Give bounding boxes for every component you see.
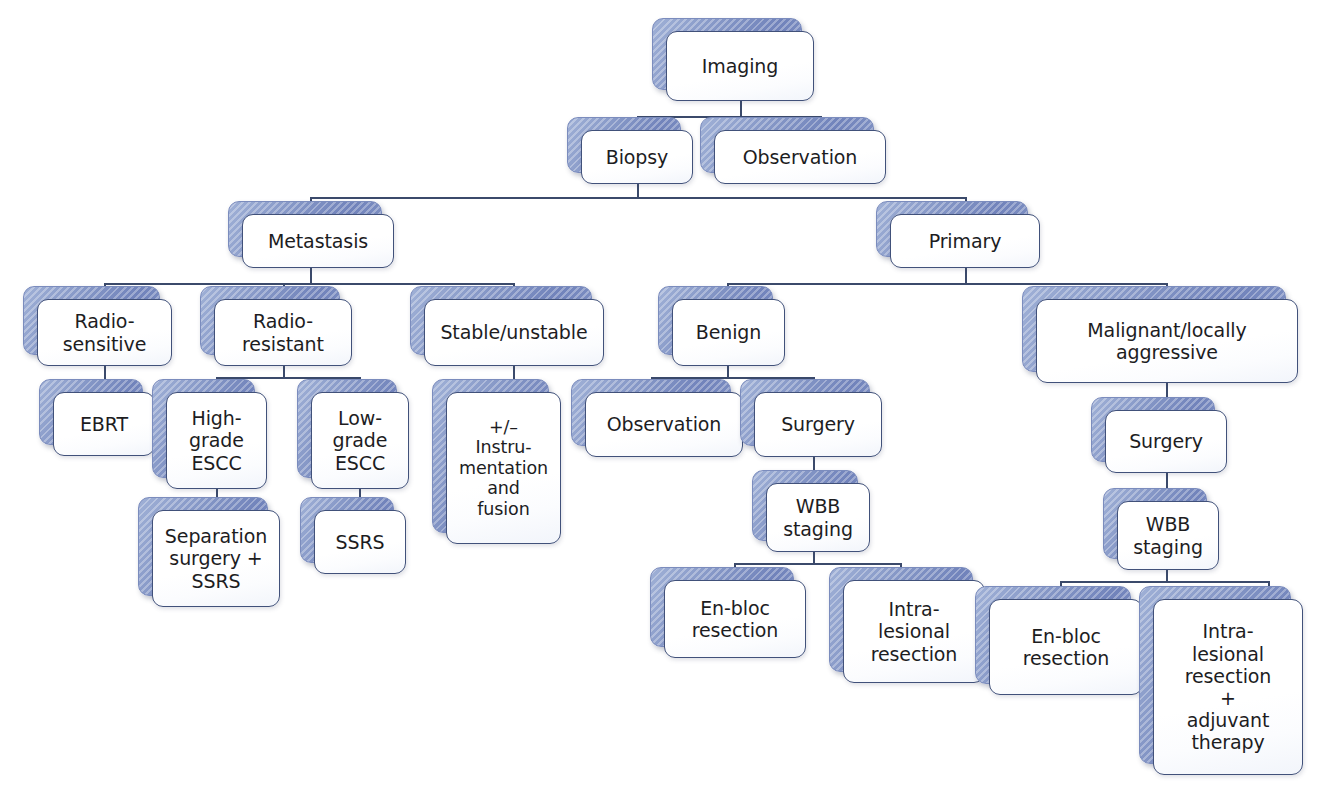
- node-observation-top[interactable]: Observation: [714, 130, 886, 184]
- node-label: EBRT: [80, 413, 128, 435]
- node-label: WBB staging: [1133, 513, 1203, 557]
- node-ssrs[interactable]: SSRS: [314, 510, 406, 574]
- connector-biopsy-stem: [637, 184, 639, 198]
- node-face: En-bloc resection: [664, 580, 806, 658]
- node-label: Surgery: [781, 413, 855, 435]
- node-face: En-bloc resection: [989, 599, 1143, 695]
- node-face: Primary: [890, 214, 1040, 268]
- node-label: Observation: [607, 413, 722, 435]
- node-label: High- grade ESCC: [189, 407, 244, 474]
- flowchart-canvas: Imaging Biopsy Observation Metastasis Pr…: [0, 0, 1319, 797]
- node-face: Surgery: [1105, 410, 1227, 473]
- connector-primary-stem: [965, 268, 967, 284]
- node-malignant[interactable]: Malignant/locally aggressive: [1036, 299, 1298, 383]
- node-face: Malignant/locally aggressive: [1036, 299, 1298, 383]
- node-face: Biopsy: [581, 130, 693, 184]
- connector-imaging-stem: [740, 101, 742, 117]
- node-metastasis[interactable]: Metastasis: [242, 214, 394, 268]
- node-label: Primary: [929, 230, 1002, 252]
- node-label: WBB staging: [783, 495, 853, 539]
- node-face: Intra- lesional resection: [843, 580, 985, 683]
- node-label: En-bloc resection: [1023, 625, 1110, 669]
- node-instrumentation[interactable]: +/– Instru- mentation and fusion: [446, 392, 561, 544]
- node-high-grade-escc[interactable]: High- grade ESCC: [166, 392, 267, 489]
- node-label: En-bloc resection: [692, 597, 779, 641]
- node-label: Biopsy: [606, 146, 669, 168]
- node-label: SSRS: [336, 531, 385, 553]
- node-face: Intra- lesional resection + adjuvant the…: [1153, 599, 1303, 775]
- node-label: Malignant/locally aggressive: [1087, 319, 1246, 363]
- node-face: Surgery: [754, 392, 882, 457]
- node-imaging[interactable]: Imaging: [666, 31, 814, 101]
- node-biopsy[interactable]: Biopsy: [581, 130, 693, 184]
- node-label: Radio- sensitive: [63, 310, 147, 354]
- node-label: Intra- lesional resection: [871, 598, 958, 665]
- connector-biopsy-bus: [310, 197, 966, 199]
- connector-metastasis-stem: [310, 268, 312, 284]
- node-wbb-staging-malignant[interactable]: WBB staging: [1117, 501, 1219, 570]
- node-enbloc-resection-benign[interactable]: En-bloc resection: [664, 580, 806, 658]
- node-face: Benign: [672, 299, 785, 366]
- node-label: +/– Instru- mentation and fusion: [459, 417, 548, 519]
- node-radio-sensitive[interactable]: Radio- sensitive: [37, 299, 172, 366]
- node-face: Radio- resistant: [214, 299, 352, 366]
- connector-primary-bus: [727, 283, 1167, 285]
- node-face: SSRS: [314, 510, 406, 574]
- node-observation-benign[interactable]: Observation: [585, 392, 743, 457]
- connector-wbbbenign-bus: [734, 563, 901, 565]
- node-separation-surgery[interactable]: Separation surgery + SSRS: [152, 510, 280, 607]
- connector-wbbmalignant-bus: [1060, 581, 1269, 583]
- node-face: +/– Instru- mentation and fusion: [446, 392, 561, 544]
- node-ebrt[interactable]: EBRT: [53, 392, 155, 456]
- node-face: Radio- sensitive: [37, 299, 172, 366]
- node-face: WBB staging: [1117, 501, 1219, 570]
- node-label: Separation surgery + SSRS: [165, 525, 267, 592]
- node-benign[interactable]: Benign: [672, 299, 785, 366]
- node-surgery-benign[interactable]: Surgery: [754, 392, 882, 457]
- node-surgery-malignant[interactable]: Surgery: [1105, 410, 1227, 473]
- node-enbloc-resection-malignant[interactable]: En-bloc resection: [989, 599, 1143, 695]
- node-face: Imaging: [666, 31, 814, 101]
- node-label: Radio- resistant: [242, 310, 324, 354]
- node-label: Metastasis: [268, 230, 368, 252]
- node-face: Observation: [585, 392, 743, 457]
- node-label: Imaging: [702, 55, 779, 77]
- node-face: Stable/unstable: [424, 299, 604, 366]
- node-face: WBB staging: [766, 483, 870, 552]
- node-face: Metastasis: [242, 214, 394, 268]
- node-face: High- grade ESCC: [166, 392, 267, 489]
- node-label: Intra- lesional resection + adjuvant the…: [1185, 620, 1272, 753]
- node-intralesional-resection-benign[interactable]: Intra- lesional resection: [843, 580, 985, 683]
- connector-metastasis-bus: [104, 283, 513, 285]
- node-label: Benign: [696, 321, 762, 343]
- node-face: EBRT: [53, 392, 155, 456]
- node-stable-unstable[interactable]: Stable/unstable: [424, 299, 604, 366]
- node-face: Observation: [714, 130, 886, 184]
- node-label: Low- grade ESCC: [333, 407, 388, 474]
- node-face: Separation surgery + SSRS: [152, 510, 280, 607]
- node-wbb-staging-benign[interactable]: WBB staging: [766, 483, 870, 552]
- node-intralesional-resection-malignant[interactable]: Intra- lesional resection + adjuvant the…: [1153, 599, 1303, 775]
- node-low-grade-escc[interactable]: Low- grade ESCC: [311, 392, 409, 489]
- node-label: Stable/unstable: [440, 321, 587, 343]
- node-face: Low- grade ESCC: [311, 392, 409, 489]
- node-radio-resistant[interactable]: Radio- resistant: [214, 299, 352, 366]
- node-label: Observation: [743, 146, 858, 168]
- node-primary[interactable]: Primary: [890, 214, 1040, 268]
- node-label: Surgery: [1129, 430, 1203, 452]
